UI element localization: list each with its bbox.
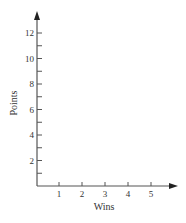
y-axis-label: Points bbox=[8, 90, 19, 115]
x-tick-label: 5 bbox=[149, 189, 154, 199]
y-tick-label: 6 bbox=[30, 105, 35, 115]
y-tick-label: 10 bbox=[25, 54, 35, 64]
y-ticks: 24681012 bbox=[25, 28, 42, 173]
y-axis-arrow-icon bbox=[34, 11, 40, 20]
y-tick-label: 8 bbox=[30, 79, 35, 89]
x-axis-label: Wins bbox=[94, 201, 115, 212]
y-tick-label: 2 bbox=[30, 156, 35, 166]
y-tick-label: 12 bbox=[25, 28, 34, 38]
x-tick-label: 4 bbox=[126, 189, 131, 199]
x-tick-label: 1 bbox=[57, 189, 62, 199]
x-tick-label: 3 bbox=[103, 189, 108, 199]
chart-canvas: 24681012 12345 Wins Points bbox=[0, 0, 186, 223]
x-axis-arrow-icon bbox=[169, 183, 178, 189]
x-tick-label: 2 bbox=[80, 189, 85, 199]
y-tick-label: 4 bbox=[30, 130, 35, 140]
x-ticks: 12345 bbox=[57, 182, 154, 199]
